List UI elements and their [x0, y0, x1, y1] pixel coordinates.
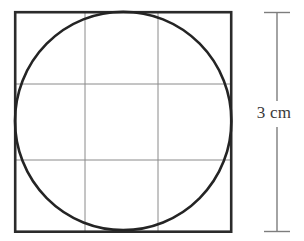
geometry-figure: 3 cm	[0, 0, 304, 241]
inscribed-circle	[15, 12, 231, 230]
dimension-label: 3 cm	[244, 103, 304, 123]
